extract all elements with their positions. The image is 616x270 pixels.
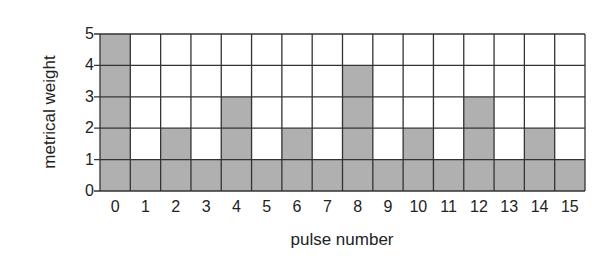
empty-cell (555, 97, 585, 128)
empty-cell (221, 34, 251, 65)
empty-cell (433, 34, 463, 65)
filled-cell (343, 160, 373, 191)
empty-cell (494, 97, 524, 128)
x-tick-label: 0 (111, 198, 120, 216)
empty-cell (161, 34, 191, 65)
empty-cell (130, 34, 160, 65)
empty-cell (433, 65, 463, 96)
empty-cell (373, 97, 403, 128)
x-tick-label: 2 (171, 198, 180, 216)
empty-cell (524, 97, 554, 128)
empty-cell (403, 34, 433, 65)
filled-cell (100, 34, 130, 65)
empty-cell (494, 34, 524, 65)
filled-cell (161, 128, 191, 159)
empty-cell (403, 97, 433, 128)
filled-cell (221, 97, 251, 128)
empty-cell (130, 97, 160, 128)
empty-cell (282, 65, 312, 96)
x-tick-label: 15 (561, 198, 579, 216)
empty-cell (252, 97, 282, 128)
filled-cell (221, 128, 251, 159)
empty-cell (312, 97, 342, 128)
filled-cell (282, 128, 312, 159)
filled-cell (464, 97, 494, 128)
y-tick-label: 2 (85, 119, 94, 137)
empty-cell (464, 34, 494, 65)
filled-cell (100, 97, 130, 128)
x-tick-label: 10 (409, 198, 427, 216)
filled-cell (191, 160, 221, 191)
empty-cell (312, 65, 342, 96)
x-tick-label: 8 (353, 198, 362, 216)
empty-cell (161, 97, 191, 128)
x-tick-label: 12 (470, 198, 488, 216)
empty-cell (555, 34, 585, 65)
filled-cell (494, 160, 524, 191)
filled-cell (343, 65, 373, 96)
x-tick-label: 1 (141, 198, 150, 216)
empty-cell (524, 65, 554, 96)
x-tick-label: 9 (384, 198, 393, 216)
filled-cell (464, 128, 494, 159)
empty-cell (464, 65, 494, 96)
filled-cell (524, 160, 554, 191)
filled-cell (130, 160, 160, 191)
empty-cell (191, 97, 221, 128)
empty-cell (433, 128, 463, 159)
y-tick-label: 3 (85, 88, 94, 106)
y-tick-label: 5 (85, 25, 94, 43)
empty-cell (252, 65, 282, 96)
filled-cell (282, 160, 312, 191)
empty-cell (494, 65, 524, 96)
empty-cell (191, 65, 221, 96)
empty-cell (403, 65, 433, 96)
y-tick-label: 1 (85, 151, 94, 169)
x-tick-label: 4 (232, 198, 241, 216)
y-tick-label: 4 (85, 56, 94, 74)
filled-cell (100, 128, 130, 159)
empty-cell (252, 128, 282, 159)
filled-cell (312, 160, 342, 191)
empty-cell (555, 128, 585, 159)
filled-cell (100, 65, 130, 96)
filled-cell (524, 128, 554, 159)
filled-cell (373, 160, 403, 191)
empty-cell (130, 128, 160, 159)
empty-cell (312, 128, 342, 159)
x-tick-label: 7 (323, 198, 332, 216)
empty-cell (282, 97, 312, 128)
empty-cell (555, 65, 585, 96)
empty-cell (524, 34, 554, 65)
empty-cell (161, 65, 191, 96)
empty-cell (282, 34, 312, 65)
y-axis-label: metrical weight (40, 55, 60, 168)
empty-cell (191, 34, 221, 65)
empty-cell (191, 128, 221, 159)
empty-cell (373, 65, 403, 96)
x-tick-label: 5 (262, 198, 271, 216)
filled-cell (221, 160, 251, 191)
empty-cell (221, 65, 251, 96)
x-axis-label: pulse number (290, 230, 393, 250)
x-tick-label: 3 (202, 198, 211, 216)
filled-cell (403, 160, 433, 191)
filled-cell (464, 160, 494, 191)
empty-cell (252, 34, 282, 65)
empty-cell (494, 128, 524, 159)
x-tick-label: 13 (500, 198, 518, 216)
empty-cell (312, 34, 342, 65)
x-tick-label: 6 (293, 198, 302, 216)
empty-cell (373, 34, 403, 65)
y-tick-label: 0 (85, 182, 94, 200)
filled-cell (343, 97, 373, 128)
filled-cell (403, 128, 433, 159)
empty-cell (343, 34, 373, 65)
empty-cell (373, 128, 403, 159)
filled-cell (252, 160, 282, 191)
empty-cell (130, 65, 160, 96)
filled-cell (433, 160, 463, 191)
x-tick-label: 14 (531, 198, 549, 216)
filled-cell (161, 160, 191, 191)
empty-cell (433, 97, 463, 128)
